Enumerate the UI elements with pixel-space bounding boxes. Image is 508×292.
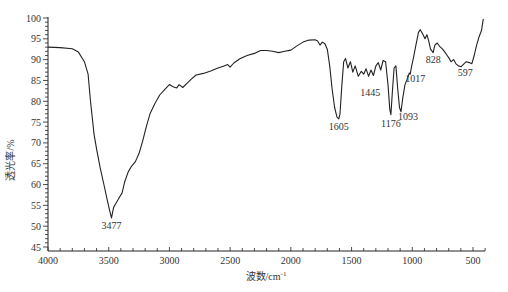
x-tick-label: 500	[466, 255, 481, 266]
ir-spectrum-chart: 4550556065707580859095100 40003500300025…	[0, 0, 508, 292]
peak-label-1093: 1093	[398, 111, 418, 122]
x-axis: 4000350030002500200015001000500	[38, 247, 485, 266]
x-tick-label: 1500	[342, 255, 362, 266]
y-tick-label: 70	[31, 137, 41, 148]
y-axis-title: 透光率/%	[4, 139, 16, 180]
y-tick-label: 90	[31, 54, 41, 65]
peak-label-597: 597	[458, 67, 473, 78]
x-axis-title-sup: -1	[281, 270, 287, 278]
y-tick-label: 60	[31, 179, 41, 190]
y-tick-label: 85	[31, 75, 41, 86]
x-tick-label: 4000	[38, 255, 58, 266]
y-tick-label: 80	[31, 96, 41, 107]
peak-label-1605: 1605	[329, 121, 349, 132]
peak-label-1445: 1445	[360, 87, 380, 98]
x-tick-label: 2500	[220, 255, 240, 266]
peak-label-828: 828	[426, 54, 441, 65]
x-axis-title-text: 波数/cm	[246, 270, 281, 282]
spectrum-line	[48, 19, 483, 218]
y-tick-label: 75	[31, 117, 41, 128]
y-tick-label: 50	[31, 221, 41, 232]
y-axis: 4550556065707580859095100	[26, 13, 48, 253]
x-tick-label: 3000	[159, 255, 179, 266]
y-tick-label: 45	[31, 242, 41, 253]
peak-label-3477: 3477	[102, 220, 122, 231]
peak-label-1017: 1017	[405, 73, 425, 84]
x-tick-label: 3500	[99, 255, 119, 266]
x-tick-label: 1000	[402, 255, 422, 266]
x-axis-title: 波数/cm-1	[246, 270, 287, 282]
y-tick-label: 65	[31, 158, 41, 169]
peak-annotations: 347716051445117610931017828597	[102, 54, 473, 231]
x-tick-label: 2000	[281, 255, 301, 266]
y-tick-label: 100	[26, 13, 41, 24]
y-tick-label: 95	[31, 33, 41, 44]
y-tick-label: 55	[31, 200, 41, 211]
